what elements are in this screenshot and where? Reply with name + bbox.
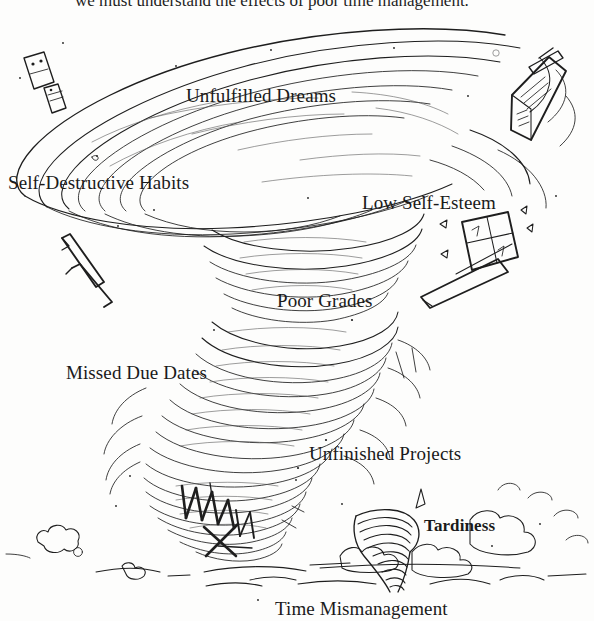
funnel-middle-swirls xyxy=(104,312,430,494)
figure-page: .ink { fill:none; stroke:#1e1e1e; stroke… xyxy=(0,0,594,621)
debris-notebook xyxy=(493,48,566,140)
ground-clouds xyxy=(6,483,588,586)
cut-off-header-text: we must understand the effects of poor t… xyxy=(75,0,469,11)
label-unfinished-projects: Unfinished Projects xyxy=(309,443,461,465)
label-self-destructive-habits: Self-Destructive Habits xyxy=(8,172,189,194)
label-tardiness: Tardiness xyxy=(424,516,495,536)
secondary-tornado xyxy=(354,489,425,592)
debris-top-left xyxy=(24,52,66,113)
label-poor-grades: Poor Grades xyxy=(277,290,373,312)
debris-base-sticks xyxy=(182,483,304,556)
label-low-self-esteem: Low Self-Esteem xyxy=(362,192,496,214)
label-missed-due-dates: Missed Due Dates xyxy=(66,362,207,384)
label-unfulfilled-dreams: Unfulfilled Dreams xyxy=(186,85,336,107)
debris-window-plank xyxy=(421,206,533,308)
figure-caption-time-mismanagement: Time Mismanagement xyxy=(275,598,448,620)
